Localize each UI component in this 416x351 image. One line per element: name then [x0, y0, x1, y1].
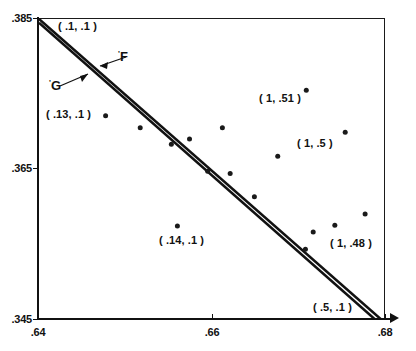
x-axis-arrow-icon: [390, 313, 399, 323]
annotation-p-013-01: ( .13, .1 ): [46, 108, 91, 120]
curve-label-g-text: G: [51, 78, 61, 93]
annotation-p-1-05: ( 1, .5 ): [297, 137, 333, 149]
plot-frame: [38, 18, 385, 319]
chart-figure: .385 .365 .345 .64 .66 .68 'F 'G ( .1, .…: [0, 0, 416, 351]
annotation-p-1-051: ( 1, .51 ): [259, 92, 301, 104]
y-tick-label-365: .365: [0, 162, 32, 174]
x-tick-68: [385, 314, 386, 320]
annotation-p-01-01: ( .1, .1 ): [58, 20, 97, 32]
annotation-p-05-01: ( .5, .1 ): [313, 301, 352, 313]
curve-label-f-text: F: [120, 49, 128, 64]
x-tick-64: [38, 314, 39, 320]
curve-label-f: 'F: [118, 49, 128, 64]
y-tick-label-385: .385: [0, 12, 32, 24]
y-tick-label-345: .345: [0, 313, 32, 325]
curve-label-g: 'G: [49, 78, 61, 93]
x-tick-label-66: .66: [192, 326, 232, 338]
y-tick-385: [33, 18, 39, 19]
y-tick-365: [33, 168, 39, 169]
annotation-p-1-048: ( 1, .48 ): [330, 237, 372, 249]
x-axis-line: [37, 318, 394, 320]
annotation-p-014-01: ( .14, .1 ): [159, 234, 204, 246]
x-tick-label-68: .68: [365, 326, 405, 338]
x-tick-label-64: .64: [18, 326, 58, 338]
x-tick-66: [212, 314, 213, 320]
